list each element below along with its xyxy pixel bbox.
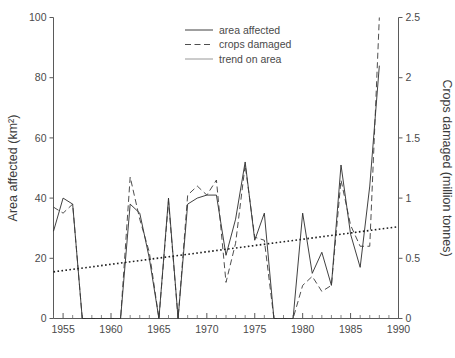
y-tick-label-right: 2	[406, 71, 412, 83]
x-tick-label: 1990	[387, 323, 411, 335]
series-line-area-affected	[54, 66, 380, 319]
y-tick-label-right: 1	[406, 192, 412, 204]
y-axis-title-right: Crops damaged (million tonnes)	[440, 79, 454, 256]
y-tick-label-left: 60	[35, 132, 47, 144]
y-tick-label-left: 100	[29, 11, 47, 23]
series-line-trend-on-area	[54, 227, 399, 272]
x-tick-label: 1970	[195, 323, 219, 335]
legend-label-area-affected: area affected	[219, 24, 280, 36]
chart-figure: 02040608010000.511.522.51955196019651970…	[0, 0, 455, 358]
y-tick-label-left: 40	[35, 192, 47, 204]
y-tick-label-right: 2.5	[406, 11, 421, 23]
axis-titles-group: Area affected (km²)Crops damaged (millio…	[6, 79, 454, 256]
legend-label-trend-on-area: trend on area	[219, 53, 282, 65]
x-tick-label: 1965	[147, 323, 171, 335]
y-tick-label-left: 0	[41, 312, 47, 324]
x-tick-label: 1985	[339, 323, 363, 335]
y-tick-label-left: 20	[35, 252, 47, 264]
line-chart-svg: 02040608010000.511.522.51955196019651970…	[0, 0, 455, 358]
x-tick-label: 1960	[99, 323, 123, 335]
series-line-crops-damaged	[54, 18, 380, 319]
y-axis-title-left: Area affected (km²)	[6, 115, 20, 222]
x-tick-label: 1955	[51, 323, 75, 335]
y-tick-label-right: 1.5	[406, 132, 421, 144]
x-tick-label: 1975	[243, 323, 267, 335]
y-tick-label-left: 80	[35, 71, 47, 83]
y-tick-label-right: 0.5	[406, 252, 421, 264]
chart-legend: area affectedcrops damagedtrend on area	[185, 24, 292, 65]
x-tick-label: 1980	[291, 323, 315, 335]
legend-label-crops-damaged: crops damaged	[219, 38, 292, 50]
